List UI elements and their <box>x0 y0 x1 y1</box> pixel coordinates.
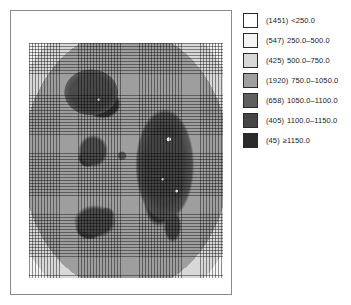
legend-range: 750.0–1050.0 <box>291 76 338 85</box>
legend-swatch-icon <box>243 53 258 68</box>
legend-label: (658)1050.0–1100.0 <box>266 96 338 105</box>
legend-label: (1920)750.0–1050.0 <box>266 76 338 85</box>
legend-count: (405) <box>266 116 284 125</box>
legend-swatch-icon <box>243 133 258 148</box>
legend-row[interactable]: (658)1050.0–1100.0 <box>243 90 343 110</box>
raster-bright-flecks <box>29 43 223 278</box>
legend-count: (425) <box>266 56 284 65</box>
legend-row[interactable]: (45)≥1150.0 <box>243 130 343 150</box>
legend-count: (1451) <box>266 16 288 25</box>
legend-count: (658) <box>266 96 284 105</box>
raster-image <box>29 43 223 278</box>
legend-row[interactable]: (1920)750.0–1050.0 <box>243 70 343 90</box>
legend-range: 500.0–750.0 <box>287 56 330 65</box>
legend-range: ≥1150.0 <box>283 136 310 145</box>
class-legend: (1451)<250.0 (547)250.0–500.0 (425)500.0… <box>243 10 343 150</box>
legend-label: (547)250.0–500.0 <box>266 36 330 45</box>
map-panel <box>10 10 232 295</box>
legend-label: (425)500.0–750.0 <box>266 56 330 65</box>
legend-row[interactable]: (547)250.0–500.0 <box>243 30 343 50</box>
legend-range: <250.0 <box>291 16 315 25</box>
legend-swatch-icon <box>243 33 258 48</box>
legend-swatch-icon <box>243 73 258 88</box>
legend-row[interactable]: (425)500.0–750.0 <box>243 50 343 70</box>
legend-range: 250.0–500.0 <box>287 36 330 45</box>
legend-count: (1920) <box>266 76 288 85</box>
legend-row[interactable]: (405)1100.0–1150.0 <box>243 110 343 130</box>
legend-swatch-icon <box>243 113 258 128</box>
legend-count: (45) <box>266 136 280 145</box>
legend-range: 1100.0–1150.0 <box>287 116 337 125</box>
legend-label: (45)≥1150.0 <box>266 136 310 145</box>
legend-label: (1451)<250.0 <box>266 16 315 25</box>
legend-swatch-icon <box>243 93 258 108</box>
legend-count: (547) <box>266 36 284 45</box>
legend-label: (405)1100.0–1150.0 <box>266 116 337 125</box>
legend-swatch-icon <box>243 13 258 28</box>
legend-range: 1050.0–1100.0 <box>287 96 338 105</box>
legend-row[interactable]: (1451)<250.0 <box>243 10 343 30</box>
